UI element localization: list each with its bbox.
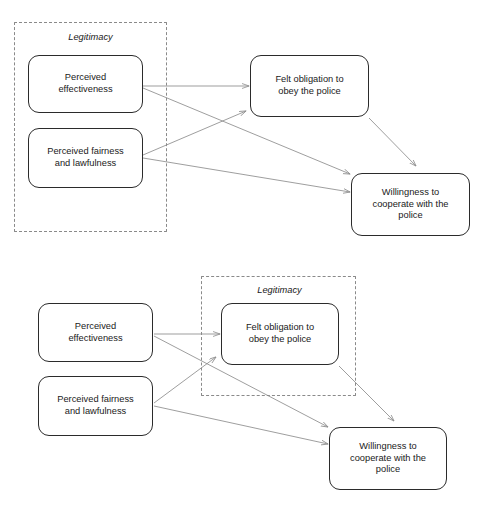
diagram-canvas: Legitimacy Perceived effectiveness Perce…	[0, 0, 481, 506]
node-felt-obligation-top[interactable]: Felt obligation to obey the police	[250, 55, 369, 117]
node-label: Felt obligation to obey the police	[246, 322, 314, 346]
node-label: Perceived effectiveness	[58, 72, 112, 96]
node-label: Perceived fairness and lawfulness	[47, 146, 123, 170]
node-label: Willingness to cooperate with the police	[373, 187, 449, 223]
node-perceived-fairness-lawfulness-bottom[interactable]: Perceived fairness and lawfulness	[38, 376, 153, 436]
edge-top-fo-to-wc	[369, 118, 416, 166]
legitimacy-group-top	[14, 22, 167, 232]
legitimacy-group-bottom-label: Legitimacy	[237, 285, 322, 295]
legitimacy-group-top-label: Legitimacy	[48, 32, 133, 42]
edge-top-pfl-to-wc	[143, 158, 350, 192]
edge-bottom-pfl-to-wc	[154, 406, 328, 444]
node-label: Perceived effectiveness	[68, 321, 122, 345]
node-felt-obligation-bottom[interactable]: Felt obligation to obey the police	[221, 303, 339, 365]
node-perceived-effectiveness-top[interactable]: Perceived effectiveness	[28, 55, 143, 113]
node-perceived-fairness-lawfulness-top[interactable]: Perceived fairness and lawfulness	[28, 128, 143, 188]
node-label: Perceived fairness and lawfulness	[57, 394, 133, 418]
node-willingness-cooperate-bottom[interactable]: Willingness to cooperate with the police	[329, 427, 447, 490]
node-label: Willingness to cooperate with the police	[350, 441, 426, 477]
node-perceived-effectiveness-bottom[interactable]: Perceived effectiveness	[38, 303, 153, 362]
node-label: Felt obligation to obey the police	[275, 74, 343, 98]
node-willingness-cooperate-top[interactable]: Willingness to cooperate with the police	[351, 173, 470, 236]
